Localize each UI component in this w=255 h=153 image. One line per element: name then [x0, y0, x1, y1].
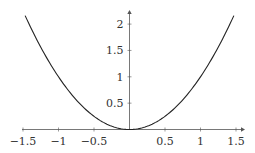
x-tick-label: −1 [50, 135, 66, 148]
y-tick-label: 0.5 [106, 97, 124, 110]
y-tick-label: 2 [117, 18, 124, 31]
x-tick-label: 1 [197, 135, 204, 148]
x-tick-label: 1.5 [227, 135, 245, 148]
chart-plot: −1.5−1−0.50.511.5 0.511.52 [0, 0, 255, 153]
x-tick-label: −1.5 [10, 135, 37, 148]
x-axis-arrow-icon [241, 127, 245, 131]
x-tick-label: 0.5 [156, 135, 174, 148]
y-axis-ticks: 0.511.52 [106, 18, 132, 110]
y-axis-arrow-icon [127, 10, 131, 14]
axes [22, 10, 245, 132]
y-tick-label: 1 [117, 71, 124, 84]
y-tick-label: 1.5 [106, 44, 124, 57]
x-tick-label: −0.5 [81, 135, 108, 148]
x-axis-ticks: −1.5−1−0.50.511.5 [10, 128, 245, 148]
